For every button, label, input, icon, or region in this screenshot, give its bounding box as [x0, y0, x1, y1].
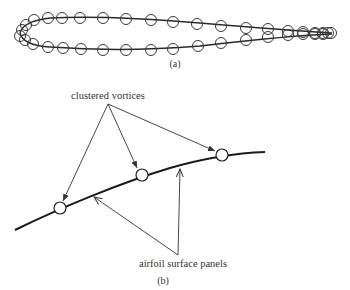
- vortex-marker: [168, 17, 179, 28]
- surface-detail-figure-b: clustered vortices airfoil surface panel…: [15, 90, 265, 287]
- vortex-marker: [146, 45, 157, 56]
- caption-a: (a): [169, 58, 180, 70]
- lower-surface-vortices: [15, 29, 329, 56]
- airfoil-surface-curve: [15, 152, 265, 230]
- arrow-to-panel-2: [178, 169, 180, 255]
- arrow-to-vortex-2: [108, 104, 137, 168]
- caption-b: (b): [157, 275, 169, 287]
- airfoil-figure-a: (a): [15, 13, 337, 71]
- arrow-to-panel-1: [94, 197, 178, 255]
- vortex-marker: [168, 44, 179, 55]
- arrow-to-vortex-3: [108, 104, 215, 151]
- label-airfoil-surface-panels: airfoil surface panels: [139, 258, 227, 269]
- diagram-canvas: (a) clustered vortices airfoil surface p…: [0, 0, 350, 290]
- upper-surface-vortices: [17, 13, 337, 39]
- vortex-marker: [216, 149, 228, 161]
- label-clustered-vortices: clustered vortices: [71, 90, 145, 101]
- vortex-marker: [263, 32, 274, 43]
- vortex-marker: [54, 202, 66, 214]
- arrow-to-vortex-1: [63, 104, 108, 201]
- vortex-marker: [136, 169, 148, 181]
- vortex-marker: [216, 21, 227, 32]
- vortex-marker: [192, 19, 203, 30]
- vortex-marker: [241, 23, 252, 34]
- vortex-marker: [75, 13, 86, 24]
